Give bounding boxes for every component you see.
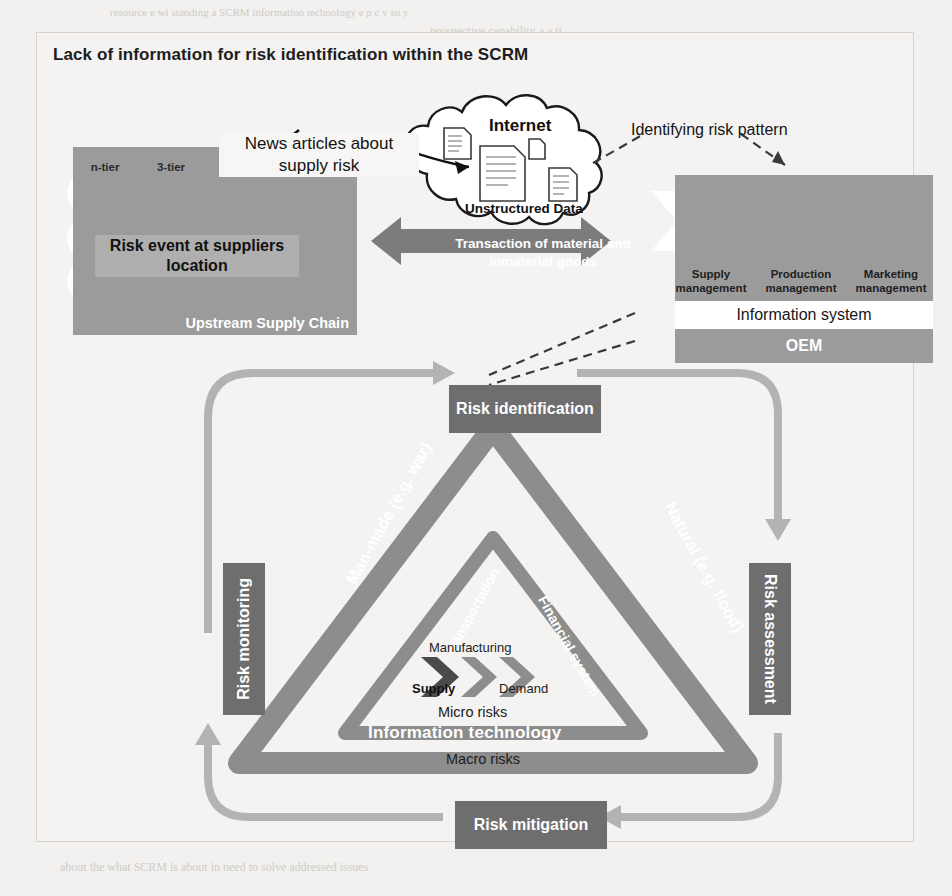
identify-arrowhead [772, 151, 785, 165]
cycle-box-assessment-label: Risk assessment [761, 574, 779, 704]
cycle-box-risk-monitoring[interactable]: Risk monitoring [223, 563, 265, 715]
cycle-box-risk-identification[interactable]: Risk identification [449, 385, 601, 433]
oem-panel: Supply management Production management … [675, 175, 933, 363]
cycle-box-monitoring-label: Risk monitoring [235, 578, 253, 700]
triangle-label-information-technology: Information technology [368, 723, 561, 743]
cycle-box-risk-mitigation[interactable]: Risk mitigation [455, 801, 607, 849]
information-system-bar: Information system [675, 301, 933, 329]
news-articles-callout: News articles about supply risk [219, 133, 419, 177]
triangle-label-macro-risks: Macro risks [446, 751, 520, 767]
internet-label: Internet [489, 116, 551, 136]
figure-container: Lack of information for risk identificat… [36, 32, 914, 842]
oem-function-supply: Supply management [669, 267, 753, 295]
cycle-box-identification-label: Risk identification [456, 399, 594, 419]
flow-label-manufacturing: Manufacturing [429, 640, 511, 655]
transaction-arrow-label: Transaction of material and inmaterial g… [427, 235, 659, 271]
bleed-text-line-0: resource e wi standing a SCRM informatio… [110, 6, 408, 18]
oem-function-production: Production management [759, 267, 843, 295]
cycle-box-mitigation-label: Risk mitigation [474, 815, 589, 835]
upstream-supply-chain-caption: Upstream Supply Chain [185, 315, 349, 331]
unstructured-data-label: Unstructured Data [465, 201, 583, 216]
risk-event-label: Risk event at suppliers location [95, 235, 299, 277]
tier-label-n: n-tier [75, 161, 135, 173]
cycle-box-risk-assessment[interactable]: Risk assessment [749, 563, 791, 715]
bleed-text-line-19: about the what SCRM is about in need to … [60, 860, 368, 875]
oem-function-marketing: Marketing management [849, 267, 933, 295]
flow-label-demand: Demand [499, 681, 548, 696]
tier-label-3: 3-tier [141, 161, 201, 173]
triangle-label-micro-risks: Micro risks [438, 704, 507, 720]
identifying-risk-pattern-label: Identifying risk pattern [631, 121, 788, 139]
flow-label-supply: Supply [412, 681, 455, 696]
oem-label-bar: OEM [675, 329, 933, 363]
